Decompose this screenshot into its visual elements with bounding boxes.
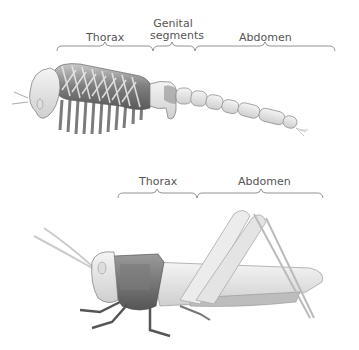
top-genital-label-line2: segments	[150, 30, 196, 42]
bottom-thorax-label: Thorax	[139, 176, 177, 188]
bottom-insect-illustration	[34, 210, 323, 336]
top-genital-segments-label: Genital segments	[150, 18, 196, 42]
bottom-thorax-brace	[118, 189, 197, 198]
top-thorax-label: Thorax	[86, 32, 124, 44]
top-abdomen-label: Abdomen	[239, 32, 292, 44]
bottom-abdomen-brace	[197, 189, 323, 198]
diagram-canvas	[0, 0, 359, 350]
top-insect-illustration	[12, 64, 308, 136]
top-genital-brace	[153, 42, 195, 51]
bottom-abdomen-label: Abdomen	[238, 176, 291, 188]
